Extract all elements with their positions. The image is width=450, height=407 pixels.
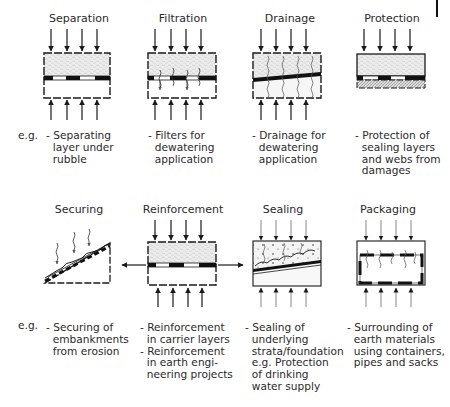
description-protection: - Protection of sealing layers and webs … [355, 130, 440, 177]
eg-label-row1: e.g. [18, 129, 38, 141]
diagram-sealing [253, 220, 321, 307]
description-filtration: - Filters for dewatering application [148, 130, 215, 165]
eg-label-row2: e.g. [18, 319, 38, 331]
diagram-separation [44, 29, 110, 120]
diagram-securing [45, 229, 110, 283]
description-reinforcement: - Reinforcement in carrier layers - Rein… [140, 322, 233, 381]
diagram-protection [357, 29, 425, 88]
description-sealing: - Sealing of underlying strata/foundatio… [245, 322, 344, 393]
description-separation: - Separating layer under rubble [46, 130, 114, 165]
description-packaging: - Surrounding of earth materials using c… [347, 322, 445, 369]
description-drainage: - Drainage for dewatering application [252, 130, 326, 165]
diagram-drainage [253, 29, 321, 120]
diagram-packaging [357, 220, 425, 307]
diagram-reinforcement [122, 220, 243, 307]
description-securing: - Securing of embankments from erosion [46, 322, 129, 357]
diagram-filtration [148, 29, 216, 120]
